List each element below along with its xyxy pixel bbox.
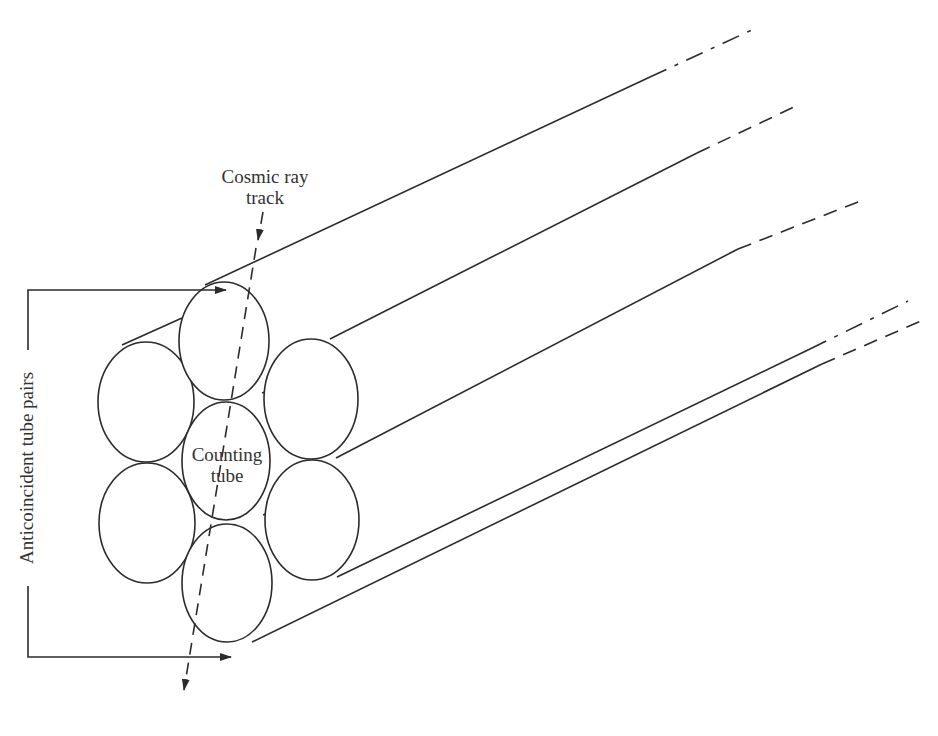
counting-tube-label: Counting tube bbox=[180, 444, 274, 486]
tube-top bbox=[179, 282, 269, 400]
cosmic-ray-label-line2: track bbox=[210, 187, 320, 208]
anticoincident-label: Anticoincident tube pairs bbox=[16, 350, 38, 586]
cosmic-ray-label: Cosmic ray track bbox=[210, 166, 320, 208]
tube-lower-right bbox=[265, 460, 359, 580]
cosmic-ray-label-line1: Cosmic ray bbox=[210, 166, 320, 187]
tube-upper-right bbox=[264, 339, 358, 459]
tube-array-diagram bbox=[0, 0, 938, 736]
counting-tube-label-line2: tube bbox=[180, 465, 274, 486]
counting-tube-label-line1: Counting bbox=[180, 444, 274, 465]
